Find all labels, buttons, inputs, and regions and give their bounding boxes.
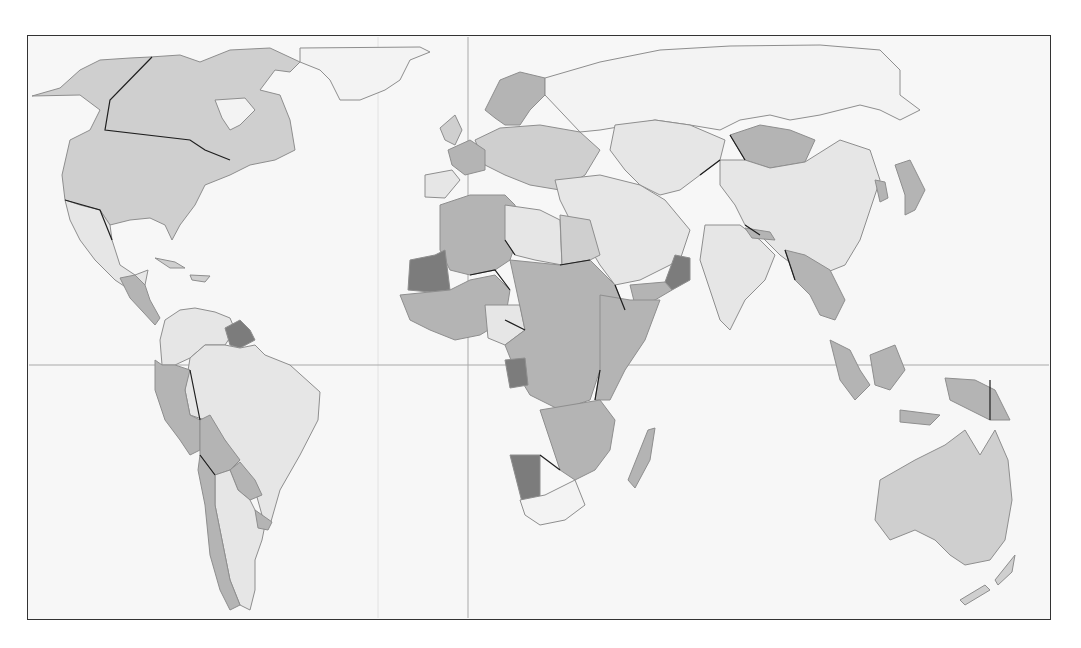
region-southern-africa[interactable] [540,400,615,480]
region-libya[interactable] [505,205,562,265]
region-indonesia[interactable] [830,340,940,425]
region-namibia[interactable] [510,455,540,502]
region-greenland[interactable] [300,47,430,100]
region-scandinavia[interactable] [485,72,545,125]
region-east-africa[interactable] [595,295,660,400]
region-uk-ireland[interactable] [440,115,462,145]
region-central-america[interactable] [120,275,160,325]
world-map [0,0,1081,648]
region-papua-new-guinea[interactable] [945,378,1010,420]
region-india[interactable] [700,225,775,330]
region-australia[interactable] [875,430,1012,565]
region-iberia[interactable] [425,170,460,198]
region-korea[interactable] [875,180,888,202]
region-caribbean[interactable] [155,258,210,282]
region-russia[interactable] [545,45,920,132]
region-gabon[interactable] [505,358,528,388]
region-madagascar[interactable] [628,428,655,488]
region-japan[interactable] [895,160,925,215]
region-mauritania[interactable] [408,250,450,292]
